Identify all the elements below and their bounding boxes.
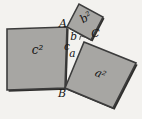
side-label-a: a — [69, 47, 75, 59]
square-on-side-c — [7, 27, 67, 90]
vertex-label-B: B — [57, 87, 66, 100]
vertex-label-C: C — [91, 27, 100, 40]
square-label-c-squared: c² — [32, 43, 44, 57]
vertex-label-A: A — [58, 17, 67, 30]
pythagorean-theorem-figure: A B C b c a c² b² a² — [0, 0, 142, 119]
side-label-b: b — [70, 30, 77, 42]
geometry-diagram-canvas: A B C b c a c² b² a² — [0, 0, 142, 119]
